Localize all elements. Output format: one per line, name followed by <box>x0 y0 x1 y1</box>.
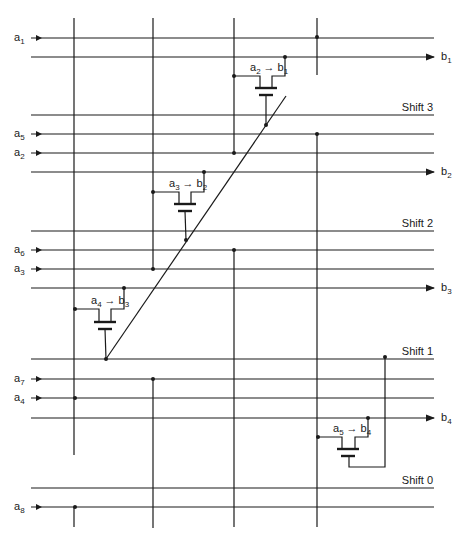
label-shift-3: Shift 3 <box>402 101 433 113</box>
label-b3: b3 <box>441 281 452 296</box>
label-a6: a6 <box>14 243 25 258</box>
input-arrow-icon <box>36 395 42 401</box>
label-a5-to-b4: a5→b4 <box>333 422 372 437</box>
label-a2: a2 <box>14 146 25 161</box>
label-a1: a1 <box>14 31 25 46</box>
label-shift-1: Shift 1 <box>402 345 433 357</box>
junction-dots <box>73 35 319 509</box>
label-a2-to-b1: a2→b1 <box>250 61 289 76</box>
input-arrow-icon <box>36 150 42 156</box>
label-a5: a5 <box>14 127 25 142</box>
vertical-wires <box>74 18 317 528</box>
shift-labels: Shift 3 Shift 2 Shift 1 Shift 0 <box>402 101 433 486</box>
input-arrow-icon <box>36 35 42 41</box>
transistor-a5-b4 <box>316 355 387 467</box>
input-lines <box>31 35 434 510</box>
input-arrow-icon <box>36 376 42 382</box>
label-b4: b4 <box>441 411 452 426</box>
diagonal-gate-bus <box>106 96 286 359</box>
label-a4-to-b3: a4→b3 <box>91 294 130 309</box>
label-a3-to-b2: a3→b2 <box>169 177 208 192</box>
label-a7: a7 <box>14 372 25 387</box>
label-shift-2: Shift 2 <box>402 217 433 229</box>
barrel-shifter-diagram: a1 a5 a2 a6 a3 a7 a4 a8 b1 b2 b3 b4 Shif… <box>0 0 467 541</box>
output-labels: b1 b2 b3 b4 <box>441 50 452 426</box>
label-a3: a3 <box>14 262 25 277</box>
input-labels: a1 a5 a2 a6 a3 a7 a4 a8 <box>14 31 25 515</box>
label-a4: a4 <box>14 391 25 406</box>
label-b2: b2 <box>441 165 452 180</box>
input-arrow-icon <box>36 131 42 137</box>
input-arrow-icon <box>36 266 42 272</box>
input-arrow-icon <box>36 504 42 510</box>
label-a8: a8 <box>14 500 25 515</box>
input-arrow-icon <box>36 247 42 253</box>
transistor-labels: a2→b1 a3→b2 a4→b3 a5→b4 <box>91 61 372 437</box>
output-lines <box>31 57 434 418</box>
label-b1: b1 <box>441 50 452 65</box>
label-shift-0: Shift 0 <box>402 474 433 486</box>
